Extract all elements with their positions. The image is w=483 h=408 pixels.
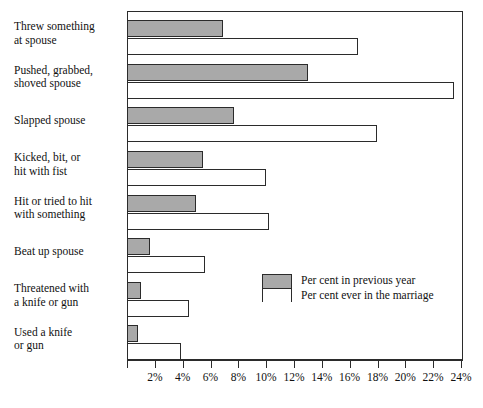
bar-prev-1	[128, 64, 308, 81]
category-label-3: Kicked, bit, or hit with fist	[14, 151, 126, 178]
x-tick-label-6: 6%	[203, 371, 218, 383]
category-label-6: Threatened with a knife or gun	[14, 282, 126, 309]
grouped-bar-chart: Threw something at spousePushed, grabbed…	[0, 0, 483, 408]
bar-ever-6	[128, 300, 189, 317]
x-tick-label-24: 24%	[450, 371, 471, 383]
category-label-7: Used a knife or gun	[14, 326, 126, 353]
x-axis: 2%4%6%8%10%12%14%16%18%20%22%24%	[127, 360, 463, 406]
bar-ever-3	[128, 169, 266, 186]
x-tick-20	[405, 361, 406, 368]
x-tick-label-12: 12%	[283, 371, 304, 383]
bar-ever-2	[128, 125, 377, 142]
bar-ever-4	[128, 213, 269, 230]
bar-prev-2	[128, 107, 234, 124]
bar-prev-6	[128, 282, 141, 299]
legend-swatch-stack	[262, 274, 292, 302]
legend-label-previous-year: Per cent in previous year	[301, 273, 415, 288]
x-tick-6	[211, 361, 212, 368]
x-tick-label-16: 16%	[339, 371, 360, 383]
bar-prev-7	[128, 325, 138, 342]
legend-swatch-ever-marriage	[263, 289, 291, 303]
bar-ever-7	[128, 343, 181, 360]
category-label-5: Beat up spouse	[14, 245, 126, 259]
x-tick-2	[155, 361, 156, 368]
x-axis-cap-left	[127, 360, 128, 368]
category-label-0: Threw something at spouse	[14, 20, 126, 47]
bar-prev-0	[128, 20, 223, 37]
bar-prev-5	[128, 238, 150, 255]
legend-label-ever-marriage: Per cent ever in the marriage	[301, 288, 434, 303]
plot-area	[127, 11, 463, 360]
x-tick-22	[433, 361, 434, 368]
x-tick-8	[238, 361, 239, 368]
bar-ever-5	[128, 256, 205, 273]
chart-legend: Per cent in previous year Per cent ever …	[262, 273, 442, 305]
x-tick-label-8: 8%	[231, 371, 246, 383]
x-tick-label-4: 4%	[175, 371, 190, 383]
x-tick-label-2: 2%	[147, 371, 162, 383]
bar-ever-0	[128, 38, 358, 55]
category-label-1: Pushed, grabbed, shoved spouse	[14, 64, 126, 91]
x-tick-12	[294, 361, 295, 368]
x-tick-label-14: 14%	[311, 371, 332, 383]
x-tick-24	[461, 361, 462, 368]
x-tick-4	[183, 361, 184, 368]
x-tick-label-10: 10%	[256, 371, 277, 383]
bar-prev-3	[128, 151, 203, 168]
legend-swatch-previous-year	[263, 275, 291, 289]
x-tick-label-22: 22%	[423, 371, 444, 383]
category-label-4: Hit or tried to hit with something	[14, 195, 126, 222]
x-tick-14	[322, 361, 323, 368]
x-tick-16	[350, 361, 351, 368]
x-tick-label-18: 18%	[367, 371, 388, 383]
x-axis-line	[127, 360, 463, 361]
x-tick-18	[378, 361, 379, 368]
bar-prev-4	[128, 195, 196, 212]
x-tick-label-20: 20%	[395, 371, 416, 383]
bar-ever-1	[128, 82, 454, 99]
x-tick-10	[266, 361, 267, 368]
category-label-2: Slapped spouse	[14, 114, 126, 128]
category-label-column: Threw something at spousePushed, grabbed…	[0, 10, 122, 360]
